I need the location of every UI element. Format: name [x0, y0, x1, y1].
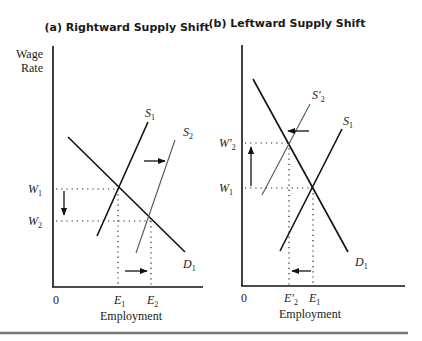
label-e1-b: E1: [308, 291, 320, 307]
demand-curve-d1: [68, 137, 185, 252]
demand-curve-d1-b: [253, 79, 348, 252]
panel-b-title: (b) Leftward Supply Shift: [209, 17, 366, 30]
label-s2: S2: [183, 125, 193, 141]
x-axis-label-a: Employment: [100, 309, 163, 323]
label-s1: S1: [145, 106, 155, 122]
label-d1-b: D1: [354, 255, 368, 271]
labor-market-supply-shift-figure: (a) Rightward Supply Shift Wage Rate S1 …: [0, 0, 422, 341]
label-w2prime: W′2: [219, 136, 236, 152]
label-s2prime: S′2: [312, 88, 325, 104]
x-axis-label-b: Employment: [279, 307, 342, 321]
label-e1: E1: [113, 293, 125, 309]
supply-curve-s1: [97, 122, 148, 236]
origin-label-a: 0: [53, 293, 59, 307]
y-axis-label-wage: Wage: [16, 47, 43, 61]
panel-a-title: (a) Rightward Supply Shift: [44, 21, 209, 34]
label-w2: W2: [28, 214, 42, 230]
panel-a: (a) Rightward Supply Shift Wage Rate S1 …: [16, 21, 210, 323]
y-axis-label-rate: Rate: [21, 61, 43, 75]
origin-label-b: 0: [241, 291, 247, 305]
label-s1-b: S1: [343, 114, 353, 130]
label-w1: W1: [28, 182, 42, 198]
label-e2prime: E′2: [283, 291, 298, 307]
panel-b: (b) Leftward Supply Shift S′2 S1 D1 W′2 …: [209, 17, 405, 321]
label-d1: D1: [182, 257, 196, 273]
label-e2: E2: [146, 293, 158, 309]
supply-curve-s2prime: [262, 104, 310, 195]
label-w1-b: W1: [219, 181, 233, 197]
